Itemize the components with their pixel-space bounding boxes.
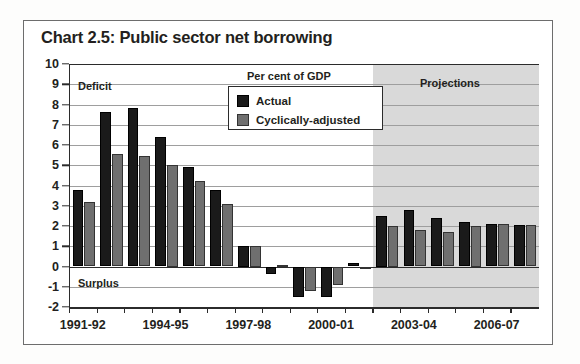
bar-2003-04-actual <box>404 210 415 267</box>
bar-1995-96-actual <box>183 167 194 266</box>
bar-1997-98-actual <box>238 246 249 266</box>
y-axis-tick-9 <box>62 84 69 85</box>
bar-2002-03-actual <box>376 216 387 267</box>
x-axis-label-1991-92: 1991-92 <box>60 318 106 332</box>
y-axis-label-9: 9 <box>33 77 59 91</box>
y-axis-label-10: 10 <box>33 57 59 71</box>
bar-2005-06-cyclically-adjusted <box>471 226 482 267</box>
x-axis-line <box>69 307 538 309</box>
x-axis-tick-2005-06 <box>455 307 456 313</box>
bar-1997-98-cyclically-adjusted <box>250 246 261 266</box>
y-axis-tick-7 <box>62 124 69 125</box>
x-axis-label-1997-98: 1997-98 <box>225 318 271 332</box>
y-axis-tick-4 <box>62 185 69 186</box>
y-axis-label-6: 6 <box>33 138 59 152</box>
y-axis-label-2: 2 <box>33 219 59 233</box>
bar-2004-05-cyclically-adjusted <box>443 232 454 266</box>
x-axis-tick-1997-98 <box>235 307 236 313</box>
x-axis-label-2006-07: 2006-07 <box>474 318 520 332</box>
bar-1991-92-actual <box>73 190 84 267</box>
y-axis-tick--2 <box>62 306 69 307</box>
bar-1999-00-actual <box>293 267 304 297</box>
y-axis-tick-8 <box>62 104 69 105</box>
bar-1991-92-cyclically-adjusted <box>84 202 95 267</box>
bar-1994-95-actual <box>155 137 166 267</box>
bar-2001-02-cyclically-adjusted <box>360 267 371 269</box>
y-axis-label-7: 7 <box>33 118 59 132</box>
bar-1996-97-cyclically-adjusted <box>222 204 233 267</box>
x-axis-tick-1994-95 <box>152 307 153 313</box>
chart-page: Chart 2.5: Public sector net borrowing D… <box>0 0 580 364</box>
bar-2003-04-cyclically-adjusted <box>415 230 426 266</box>
x-axis-tick-1991-92 <box>69 307 70 313</box>
y-axis-tick-5 <box>62 165 69 166</box>
page-title: Chart 2.5: Public sector net borrowing <box>41 28 332 47</box>
annotation-surplus: Surplus <box>78 277 119 289</box>
bar-2004-05-actual <box>431 218 442 267</box>
annotation-projections: Projections <box>420 77 480 89</box>
y-axis-tick-1 <box>62 246 69 247</box>
bar-2006-07-cyclically-adjusted <box>498 224 509 267</box>
y-axis-tick-0 <box>62 266 69 267</box>
bar-2007-08-actual <box>514 225 525 267</box>
gridline-6 <box>70 145 539 146</box>
bar-2000-01-cyclically-adjusted <box>333 267 344 285</box>
annotation-deficit: Deficit <box>78 80 112 92</box>
y-axis-label-4: 4 <box>33 179 59 193</box>
legend-item-cyclically-adjusted: Cyclically-adjusted <box>237 111 382 128</box>
annotation-units: Per cent of GDP <box>247 70 331 82</box>
y-axis-label--2: -2 <box>33 300 59 314</box>
x-axis-tick-1999-00 <box>290 307 291 313</box>
x-axis-tick-1998-99 <box>262 307 263 313</box>
chart-legend: Actual Cyclically-adjusted <box>228 86 383 130</box>
x-axis-tick-1995-96 <box>179 307 180 313</box>
y-axis-tick-3 <box>62 205 69 206</box>
legend-item-actual: Actual <box>237 92 382 109</box>
x-axis-tick-1996-97 <box>207 307 208 313</box>
bar-2002-03-cyclically-adjusted <box>388 226 399 267</box>
legend-label-actual: Actual <box>256 95 291 107</box>
x-axis-label-1994-95: 1994-95 <box>143 318 189 332</box>
y-axis-tick-6 <box>62 144 69 145</box>
y-axis-label-0: 0 <box>33 260 59 274</box>
x-axis-tick-2002-03 <box>372 307 373 313</box>
bar-1998-99-cyclically-adjusted <box>277 265 288 267</box>
y-axis-label--1: -1 <box>33 280 59 294</box>
bar-2006-07-actual <box>486 224 497 267</box>
y-axis-tick--1 <box>62 286 69 287</box>
legend-label-cyclically-adjusted: Cyclically-adjusted <box>256 114 360 126</box>
bar-1995-96-cyclically-adjusted <box>195 181 206 266</box>
bar-1999-00-cyclically-adjusted <box>305 267 316 291</box>
bar-1994-95-cyclically-adjusted <box>167 165 178 266</box>
bar-1996-97-actual <box>210 190 221 267</box>
y-axis-tick-10 <box>62 63 69 64</box>
y-axis-tick-2 <box>62 225 69 226</box>
bar-1993-94-actual <box>128 108 139 267</box>
legend-swatch-actual <box>237 95 249 107</box>
bar-2005-06-actual <box>459 222 470 267</box>
gridline-10 <box>70 64 539 65</box>
x-axis-tick-2004-05 <box>428 307 429 313</box>
x-axis-tick-2000-01 <box>317 307 318 313</box>
x-axis-tick-2007-08 <box>510 307 511 313</box>
x-axis-label-2003-04: 2003-04 <box>391 318 437 332</box>
x-axis-tick-2006-07 <box>483 307 484 313</box>
bar-1992-93-cyclically-adjusted <box>112 154 123 266</box>
legend-swatch-cyclically-adjusted <box>237 114 249 126</box>
x-axis-tick-2003-04 <box>400 307 401 313</box>
bar-1998-99-actual <box>266 267 277 274</box>
bar-1993-94-cyclically-adjusted <box>139 156 150 266</box>
y-axis-label-5: 5 <box>33 158 59 172</box>
x-axis-label-2000-01: 2000-01 <box>308 318 354 332</box>
bar-2007-08-cyclically-adjusted <box>526 225 537 267</box>
x-axis-tick-1992-93 <box>97 307 98 313</box>
y-axis-label-1: 1 <box>33 239 59 253</box>
y-axis-label-8: 8 <box>33 98 59 112</box>
x-axis-tick-2001-02 <box>345 307 346 313</box>
bar-2001-02-actual <box>348 263 359 266</box>
x-axis-tick-1993-94 <box>124 307 125 313</box>
bar-2000-01-actual <box>321 267 332 297</box>
y-axis-label-3: 3 <box>33 199 59 213</box>
bar-1992-93-actual <box>100 112 111 267</box>
